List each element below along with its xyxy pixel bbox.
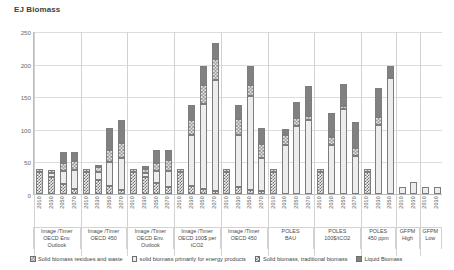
bar-segment-residues-waste [282, 135, 289, 145]
bar[interactable] [106, 128, 113, 194]
legend-label: Solid biomass residues and waste [38, 256, 123, 262]
bar-segment-liquid-biomass [258, 128, 265, 145]
bar-segment-residues-waste [247, 85, 254, 95]
bar[interactable] [60, 152, 67, 194]
plot-area [33, 32, 442, 195]
y-tick-50: 50 [5, 159, 31, 166]
legend-swatch-icon [30, 256, 36, 262]
bar[interactable] [387, 66, 394, 194]
bar-segment-energy-products [235, 135, 242, 187]
legend-item[interactable]: Solid biomass residues and waste [30, 256, 123, 262]
bar-segment-energy-products [106, 162, 113, 186]
bar-segment-liquid-biomass [153, 150, 160, 163]
bar-segment-energy-products [95, 172, 102, 179]
bar-segment-residues-waste [118, 143, 125, 157]
x-tick-year: 2010 [421, 196, 427, 209]
bar-segment-residues-waste [188, 120, 195, 136]
bar-segment-energy-products [153, 171, 160, 183]
bar[interactable] [410, 182, 417, 194]
bar-segment-traditional-biomass [36, 172, 43, 194]
x-group-scenario: OECD 450 [231, 234, 257, 242]
x-group-model: Image /Timer [41, 227, 73, 234]
legend-label: Liquid Biomass [364, 256, 402, 262]
bar[interactable] [130, 169, 137, 194]
bar[interactable] [95, 165, 102, 194]
bar[interactable] [223, 169, 230, 194]
bar[interactable] [48, 170, 55, 194]
x-group-label: POLESBAU [267, 227, 314, 249]
bar-segment-traditional-biomass [212, 191, 219, 194]
legend-item[interactable]: solid biomass primarily for energy produ… [132, 256, 246, 262]
bar[interactable] [235, 105, 242, 194]
bar[interactable] [258, 128, 265, 194]
bar[interactable] [270, 169, 277, 194]
bar[interactable] [177, 169, 184, 194]
bar-segment-residues-waste [200, 85, 207, 105]
bar-segment-traditional-biomass [188, 186, 195, 194]
bar-segment-residues-waste [258, 144, 265, 158]
x-group-label: Image /TimerOECD 450 [220, 227, 267, 249]
bar[interactable] [282, 129, 289, 194]
bar-segment-energy-products [328, 145, 335, 194]
x-group-scenario: 450 ppm [368, 234, 389, 242]
bar[interactable] [399, 187, 406, 194]
bar[interactable] [375, 88, 382, 194]
bar-segment-liquid-biomass [71, 152, 78, 161]
bar[interactable] [212, 43, 219, 194]
x-tick-year: 2010 [176, 196, 182, 209]
x-group-label: GFPMLow [419, 227, 442, 249]
x-group-model: POLES [369, 227, 387, 234]
bar-segment-traditional-biomass [247, 190, 254, 194]
bar[interactable] [340, 84, 347, 194]
x-tick-year: 2050 [293, 196, 299, 209]
bar[interactable] [352, 122, 359, 194]
bar[interactable] [36, 169, 43, 194]
x-tick-year: 2030 [328, 196, 334, 209]
bar-segment-liquid-biomass [165, 150, 172, 160]
bar-segment-residues-waste [375, 117, 382, 125]
bar[interactable] [293, 102, 300, 194]
bar-segment-residues-waste [60, 163, 67, 171]
x-tick-year: 2010 [316, 196, 322, 209]
bar-segment-traditional-biomass [106, 186, 113, 194]
bar[interactable] [142, 166, 149, 194]
x-tick-year: 2010 [363, 196, 369, 209]
bar-segment-residues-waste [328, 137, 335, 145]
bar-segment-traditional-biomass [83, 172, 90, 194]
bar[interactable] [434, 187, 441, 194]
bar[interactable] [422, 187, 429, 194]
legend-item[interactable]: Liquid Biomass [356, 256, 402, 262]
bar-segment-liquid-biomass [188, 105, 195, 119]
bar-segment-energy-products [71, 170, 78, 189]
x-tick-year: 2050 [199, 196, 205, 209]
x-group-scenario: OECD 100$ per tCO2 [174, 234, 220, 248]
bar-segment-residues-waste [153, 163, 160, 171]
bar[interactable] [71, 152, 78, 194]
bar[interactable] [317, 169, 324, 194]
bar[interactable] [305, 86, 312, 194]
bar[interactable] [118, 120, 125, 194]
legend-item[interactable]: Solid biomass, traditional biomass [255, 256, 348, 262]
bar-segment-liquid-biomass [106, 128, 113, 150]
bar-segment-energy-products [212, 80, 219, 191]
chart-legend: Solid biomass residues and wastesolid bi… [30, 253, 450, 265]
x-group-scenario: Low [425, 234, 435, 242]
bar[interactable] [364, 169, 371, 194]
y-tick-200: 200 [5, 61, 31, 68]
bar-series-container [34, 32, 442, 194]
bar[interactable] [328, 113, 335, 194]
bar-segment-energy-products [247, 96, 254, 191]
x-tick-year: 2010 [270, 196, 276, 209]
bar[interactable] [200, 66, 207, 194]
bar[interactable] [153, 150, 160, 194]
bar-segment-energy-products [422, 187, 429, 194]
bar[interactable] [247, 66, 254, 194]
bar[interactable] [188, 105, 195, 194]
x-tick-year: 2030 [188, 196, 194, 209]
bar[interactable] [83, 169, 90, 194]
bar-segment-residues-waste [106, 150, 113, 162]
bar[interactable] [165, 150, 172, 194]
x-group-label: Image /TimerOECD 450 [80, 227, 127, 249]
bar-segment-traditional-biomass [142, 177, 149, 194]
bar-segment-energy-products [305, 120, 312, 194]
